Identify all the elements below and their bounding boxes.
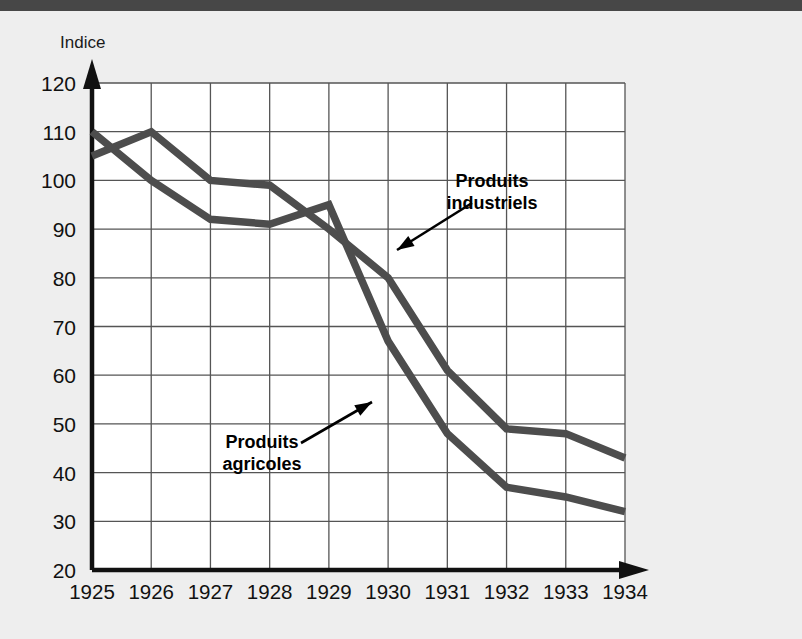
x-axis-tick-label: 1925 (69, 580, 115, 603)
x-axis-tick-label: 1931 (425, 580, 471, 603)
x-axis-tick-label: 1928 (247, 580, 293, 603)
annotation-label-line2: industriels (446, 193, 537, 213)
chart-figure: 1201101009080706050403020 19251926192719… (0, 11, 802, 639)
annotation-label-line1: Produits (225, 432, 298, 452)
y-axis-tick-label: 120 (41, 72, 76, 95)
annotation-label-line1: Produits (455, 171, 528, 191)
x-axis-tick-label: 1926 (128, 580, 174, 603)
x-axis-tick-label: 1934 (602, 580, 648, 603)
y-axis-tick-label: 90 (53, 218, 76, 241)
y-axis-tick-label: 60 (53, 364, 76, 387)
x-axis-tick-label: 1927 (188, 580, 234, 603)
x-axis-tick-label: 1930 (365, 580, 411, 603)
y-axis-tick-label: 80 (53, 267, 76, 290)
y-axis-tick-label: 100 (41, 169, 76, 192)
annotation-label-line2: agricoles (222, 454, 301, 474)
index-line-chart: 1201101009080706050403020 19251926192719… (0, 11, 802, 639)
y-axis-tick-label: 40 (53, 462, 76, 485)
x-axis-tick-label: 1929 (306, 580, 352, 603)
y-axis-tick-label: 70 (53, 316, 76, 339)
y-axis-tick-label: 20 (53, 559, 76, 582)
x-axis-tick-label: 1932 (484, 580, 530, 603)
top-divider-bar (0, 0, 802, 11)
x-axis-tick-label: 1933 (543, 580, 589, 603)
y-axis-tick-label: 30 (53, 510, 76, 533)
y-axis-label: Indice (60, 33, 105, 52)
y-axis-tick-label: 50 (53, 413, 76, 436)
y-axis-tick-label: 110 (43, 121, 76, 144)
